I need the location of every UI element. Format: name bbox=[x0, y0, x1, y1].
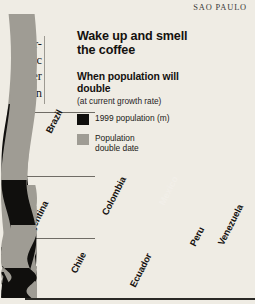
legend-label-double-date: Population double date bbox=[95, 134, 139, 154]
legend-swatch-double-date bbox=[77, 134, 89, 145]
bar-group[interactable] bbox=[221, 0, 255, 304]
chart-subnote: (at current growth rate) bbox=[77, 97, 202, 107]
bar-segment-population bbox=[0, 268, 38, 298]
chart-headline: Wake up and smell the coffee bbox=[77, 29, 195, 58]
chart-subhead: When population will double bbox=[77, 71, 197, 96]
bar-double-date-label: 2036 bbox=[108, 221, 128, 232]
legend-label-population: 1999 population (m) bbox=[95, 114, 170, 124]
infographic-figure: mer- omic nder main SAO PAULO 150100500B… bbox=[0, 0, 255, 304]
legend-swatch-population bbox=[77, 114, 89, 125]
legend-item-double-date: Population double date bbox=[77, 134, 139, 154]
legend-item-population: 1999 population (m) bbox=[77, 114, 170, 125]
